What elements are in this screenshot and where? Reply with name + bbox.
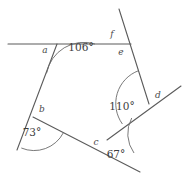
arc-110	[116, 71, 139, 124]
angle-label-a: a	[42, 45, 47, 55]
angle-label-73: 73°	[23, 126, 42, 138]
angle-label-110: 110°	[109, 100, 134, 112]
angle-label-e: e	[118, 47, 123, 57]
segment-bottom-to-right	[107, 86, 181, 140]
angle-label-b: b	[39, 104, 45, 114]
angle-label-67: 67°	[107, 148, 126, 160]
angle-label-106: 106°	[68, 41, 93, 53]
segment-left-to-bottom	[33, 117, 140, 172]
geometry-canvas: 106° 110° 73° 67° a b c d e f	[0, 0, 184, 177]
angle-label-f: f	[109, 29, 115, 39]
angle-value-labels: 106° 110° 73° 67°	[23, 41, 135, 160]
angle-label-c: c	[93, 137, 98, 147]
geometry-diagram: 106° 110° 73° 67° a b c d e f	[0, 0, 184, 177]
angle-label-d: d	[155, 90, 161, 100]
